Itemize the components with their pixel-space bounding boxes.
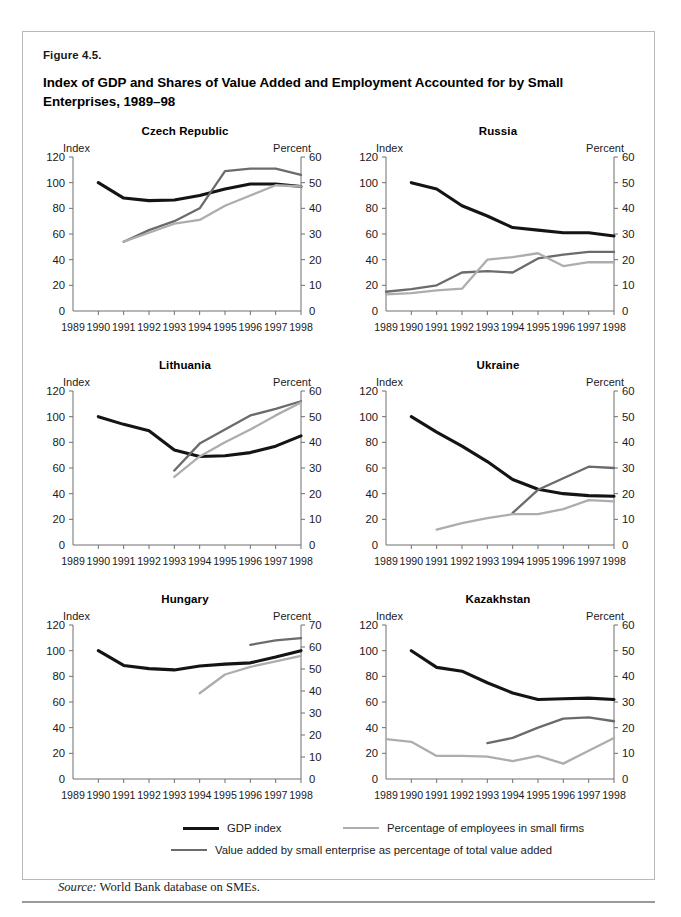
chart-panel-hungary: HungaryIndexPercent020406080100120010203… [27,593,343,821]
right-tick-label: 10 [622,747,635,759]
right-axis-title: Percent [586,142,624,154]
left-axis-title: Index [376,142,403,154]
legend-label: Value added by small enterprise as perce… [215,844,552,856]
x-tick-label: 1994 [188,555,212,567]
x-tick-label: 1995 [526,555,550,567]
right-tick-label: 10 [622,279,635,291]
right-tick-label: 0 [622,539,628,551]
left-tick-label: 0 [59,773,65,785]
right-tick-label: 30 [309,707,322,719]
left-tick-label: 20 [365,747,378,759]
left-tick-label: 120 [46,385,65,397]
panel-title: Kazakhstan [340,593,656,605]
left-tick-label: 120 [46,619,65,631]
x-tick-label: 1989 [374,321,398,333]
right-tick-label: 60 [309,641,322,653]
right-tick-label: 30 [622,462,635,474]
left-axis-title: Index [63,376,90,388]
x-tick-label: 1998 [602,321,626,333]
left-tick-label: 100 [359,645,378,657]
x-tick-label: 1994 [501,555,525,567]
x-tick-label: 1990 [400,555,424,567]
x-tick-label: 1991 [112,789,136,801]
source-prefix: Source: [58,880,97,894]
x-tick-label: 1993 [476,321,500,333]
x-tick-label: 1998 [289,789,313,801]
right-tick-label: 50 [622,177,635,189]
left-tick-label: 80 [365,436,378,448]
axes [69,391,305,549]
right-tick-label: 60 [309,385,322,397]
right-tick-label: 20 [309,729,322,741]
right-tick-label: 50 [309,663,322,675]
panel-title: Czech Republic [27,125,343,137]
series-line [98,417,301,457]
right-tick-label: 30 [309,462,322,474]
x-tick-label: 1997 [264,321,288,333]
right-tick-label: 70 [309,619,322,631]
panel-plot: IndexPercent0204060801001200102030405060… [340,373,656,587]
left-tick-label: 60 [52,696,65,708]
left-tick-label: 60 [52,462,65,474]
left-tick-label: 100 [46,411,65,423]
x-tick-label: 1995 [213,321,237,333]
x-tick-label: 1998 [289,321,313,333]
right-tick-label: 40 [622,436,635,448]
x-tick-label: 1990 [400,789,424,801]
x-tick-label: 1996 [239,789,263,801]
x-tick-label: 1993 [476,555,500,567]
x-tick-label: 1998 [289,555,313,567]
legend-swatch-value_added [171,849,207,851]
source-text: World Bank database on SMEs. [97,880,260,894]
right-tick-label: 60 [309,151,322,163]
left-axis-title: Index [63,610,90,622]
x-tick-label: 1995 [526,321,550,333]
x-tick-label: 1989 [61,789,85,801]
left-tick-label: 20 [365,513,378,525]
right-tick-label: 50 [622,411,635,423]
panel-plot: IndexPercent0204060801001200102030405060… [27,373,343,587]
chart-panel-russia: RussiaIndexPercent0204060801001200102030… [340,125,656,353]
chart-panel-kazakhstan: KazakhstanIndexPercent020406080100120010… [340,593,656,821]
series-line [411,183,614,236]
right-tick-label: 40 [309,202,322,214]
series-line [98,183,301,201]
series-line [174,403,301,477]
x-tick-label: 1998 [602,789,626,801]
right-tick-label: 50 [309,177,322,189]
right-tick-label: 10 [309,513,322,525]
right-tick-label: 0 [309,539,315,551]
left-tick-label: 40 [52,254,65,266]
x-tick-label: 1990 [400,321,424,333]
series-line [250,638,301,645]
right-tick-label: 20 [622,722,635,734]
left-tick-label: 0 [59,539,65,551]
axes [69,157,305,315]
x-tick-label: 1994 [501,789,525,801]
axes [69,625,305,783]
x-tick-label: 1992 [137,555,161,567]
figure-title: Index of GDP and Shares of Value Added a… [43,74,639,111]
series-line [513,467,614,513]
panel-plot: IndexPercent0204060801001200102030405060… [27,607,343,821]
left-tick-label: 40 [365,488,378,500]
series-line [386,738,614,764]
x-tick-label: 1991 [112,321,136,333]
x-tick-label: 1992 [137,321,161,333]
right-tick-label: 20 [622,254,635,266]
legend-item-value_added: Value added by small enterprise as perce… [171,844,552,856]
x-tick-label: 1995 [213,789,237,801]
right-tick-label: 60 [622,151,635,163]
right-tick-label: 0 [622,305,628,317]
series-line [124,169,301,242]
panel-title: Hungary [27,593,343,605]
left-tick-label: 80 [52,670,65,682]
left-tick-label: 60 [365,228,378,240]
legend-row: Value added by small enterprise as perce… [23,844,656,866]
x-tick-label: 1996 [239,321,263,333]
x-tick-label: 1989 [61,321,85,333]
panel-plot: IndexPercent0204060801001200102030405060… [340,139,656,353]
panel-title: Ukraine [340,359,656,371]
left-tick-label: 0 [372,773,378,785]
left-axis-title: Index [63,142,90,154]
